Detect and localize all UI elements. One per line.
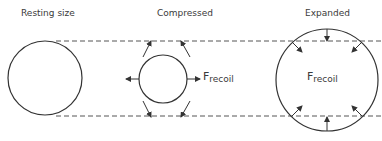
resting-circle — [8, 41, 82, 115]
expanded-force-label: Frecoil — [307, 70, 338, 83]
compressed-title: Compressed — [157, 8, 213, 18]
compressed-force-label: Frecoil — [203, 70, 234, 83]
force-subscript: recoil — [313, 74, 338, 84]
outward-recoil-arrows — [126, 41, 200, 117]
force-subscript: recoil — [209, 74, 234, 84]
expanded-title: Expanded — [305, 8, 350, 18]
compressed-circle — [139, 55, 187, 103]
recoil-force-diagram: Resting size Compressed Expanded Frecoil… — [0, 0, 382, 141]
resting-size-title: Resting size — [21, 8, 75, 18]
